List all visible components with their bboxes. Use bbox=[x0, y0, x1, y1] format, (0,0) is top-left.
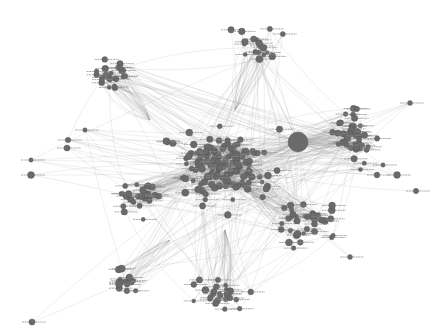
node[interactable] bbox=[112, 84, 117, 89]
node[interactable] bbox=[318, 217, 324, 223]
node[interactable] bbox=[203, 148, 209, 154]
node[interactable] bbox=[264, 172, 271, 179]
node[interactable] bbox=[121, 204, 126, 209]
node[interactable] bbox=[135, 182, 139, 186]
node[interactable] bbox=[202, 287, 209, 294]
node[interactable] bbox=[125, 191, 131, 197]
node[interactable] bbox=[207, 136, 213, 142]
node[interactable] bbox=[231, 198, 235, 202]
node[interactable] bbox=[348, 255, 353, 260]
node[interactable] bbox=[146, 183, 151, 188]
node[interactable] bbox=[408, 101, 413, 106]
node[interactable] bbox=[224, 212, 231, 219]
node[interactable] bbox=[246, 180, 251, 185]
node[interactable] bbox=[83, 128, 88, 133]
node[interactable] bbox=[351, 115, 357, 121]
node[interactable] bbox=[184, 162, 188, 166]
node[interactable] bbox=[138, 193, 144, 199]
node[interactable] bbox=[221, 176, 226, 181]
node[interactable] bbox=[286, 216, 292, 222]
node[interactable] bbox=[215, 277, 220, 282]
node[interactable] bbox=[413, 188, 418, 193]
node[interactable] bbox=[116, 281, 123, 288]
node[interactable] bbox=[64, 145, 70, 151]
node[interactable] bbox=[192, 299, 196, 303]
node[interactable] bbox=[260, 180, 264, 184]
node[interactable] bbox=[233, 168, 239, 174]
node[interactable] bbox=[65, 137, 71, 143]
node[interactable] bbox=[182, 175, 189, 182]
node[interactable] bbox=[242, 38, 249, 45]
node[interactable] bbox=[212, 300, 218, 306]
node[interactable] bbox=[353, 143, 360, 150]
node[interactable] bbox=[329, 202, 336, 209]
node[interactable] bbox=[279, 221, 284, 226]
node[interactable] bbox=[361, 132, 367, 138]
node[interactable] bbox=[203, 197, 208, 202]
node[interactable] bbox=[358, 168, 362, 172]
node[interactable] bbox=[239, 28, 246, 35]
node[interactable] bbox=[212, 150, 217, 155]
network-graph-canvas[interactable] bbox=[0, 0, 440, 332]
node[interactable] bbox=[269, 53, 276, 60]
node[interactable] bbox=[278, 227, 284, 233]
node[interactable] bbox=[260, 44, 267, 51]
node[interactable] bbox=[121, 209, 127, 215]
node[interactable] bbox=[29, 158, 33, 162]
node[interactable] bbox=[362, 161, 366, 165]
node[interactable] bbox=[147, 198, 153, 204]
node[interactable] bbox=[243, 52, 247, 56]
node[interactable] bbox=[195, 186, 202, 193]
node[interactable] bbox=[244, 148, 249, 153]
node[interactable] bbox=[294, 218, 300, 224]
graph-svg[interactable] bbox=[0, 0, 440, 332]
node[interactable] bbox=[311, 221, 317, 227]
node[interactable] bbox=[118, 66, 123, 71]
node[interactable] bbox=[267, 26, 272, 31]
node[interactable] bbox=[102, 65, 109, 72]
node[interactable] bbox=[304, 226, 310, 232]
node[interactable] bbox=[215, 158, 221, 164]
node[interactable] bbox=[349, 126, 355, 132]
node[interactable] bbox=[185, 153, 192, 160]
node[interactable] bbox=[126, 274, 133, 281]
node[interactable] bbox=[253, 49, 258, 54]
node[interactable] bbox=[200, 203, 206, 209]
node[interactable] bbox=[217, 124, 222, 129]
node[interactable] bbox=[394, 172, 401, 179]
node[interactable] bbox=[357, 136, 362, 141]
node[interactable] bbox=[252, 151, 257, 156]
node[interactable] bbox=[305, 214, 311, 220]
node[interactable] bbox=[286, 239, 293, 246]
node[interactable] bbox=[274, 167, 280, 173]
node[interactable] bbox=[256, 56, 263, 63]
node[interactable] bbox=[196, 277, 202, 283]
node[interactable] bbox=[229, 172, 233, 176]
node[interactable] bbox=[262, 150, 267, 155]
node[interactable] bbox=[208, 295, 214, 301]
node[interactable] bbox=[222, 307, 227, 312]
node[interactable] bbox=[233, 151, 240, 158]
node[interactable] bbox=[344, 143, 349, 148]
node[interactable] bbox=[99, 77, 104, 82]
node[interactable] bbox=[260, 194, 266, 200]
node[interactable] bbox=[102, 57, 108, 63]
node[interactable] bbox=[374, 172, 380, 178]
node[interactable] bbox=[331, 233, 336, 238]
node[interactable] bbox=[213, 175, 218, 180]
node[interactable] bbox=[251, 36, 257, 42]
node[interactable] bbox=[123, 183, 128, 188]
node[interactable] bbox=[131, 200, 136, 205]
node[interactable] bbox=[203, 191, 209, 197]
node[interactable] bbox=[190, 141, 197, 148]
node[interactable] bbox=[351, 156, 357, 162]
node[interactable] bbox=[28, 172, 35, 179]
node[interactable] bbox=[201, 179, 208, 186]
node[interactable] bbox=[191, 282, 197, 288]
node[interactable] bbox=[300, 202, 306, 208]
node[interactable] bbox=[280, 31, 285, 36]
node[interactable] bbox=[216, 183, 223, 190]
node[interactable] bbox=[225, 138, 230, 143]
node[interactable] bbox=[141, 217, 145, 221]
node[interactable] bbox=[137, 203, 142, 208]
